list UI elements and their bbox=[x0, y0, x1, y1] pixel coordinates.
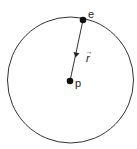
point-p bbox=[67, 78, 74, 85]
label-e: e bbox=[88, 8, 94, 20]
point-e bbox=[80, 17, 87, 24]
radius-vector-line bbox=[70, 20, 83, 81]
label-p: p bbox=[75, 77, 81, 89]
diagram-canvas: e p r → bbox=[0, 0, 137, 149]
vector-hat-icon: → bbox=[86, 48, 93, 55]
arrowhead-icon bbox=[74, 52, 80, 58]
